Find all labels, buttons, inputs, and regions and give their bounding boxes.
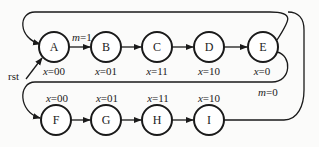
svg-text:H: H — [153, 113, 162, 127]
output-e: x=0 — [253, 65, 271, 77]
state-e: E — [248, 32, 278, 62]
output-f: x=00 — [45, 92, 69, 104]
svg-text:G: G — [102, 113, 111, 127]
state-diagram: A B C D E F G H — [0, 0, 319, 147]
svg-text:D: D — [205, 40, 214, 54]
output-d: x=10 — [197, 65, 221, 77]
state-g: G — [91, 105, 121, 135]
svg-text:B: B — [102, 40, 110, 54]
state-i: I — [194, 105, 224, 135]
state-a: A — [39, 32, 69, 62]
output-c: x=11 — [145, 65, 168, 77]
svg-text:C: C — [153, 40, 161, 54]
output-b: x=01 — [94, 65, 117, 77]
svg-text:I: I — [207, 113, 211, 127]
condition-a-b: m=1 — [72, 31, 92, 43]
state-h: H — [142, 105, 172, 135]
state-f: F — [41, 105, 71, 135]
output-h: x=11 — [146, 92, 169, 104]
state-c: C — [142, 32, 172, 62]
output-a: x=00 — [42, 65, 66, 77]
state-b: B — [91, 32, 121, 62]
svg-text:F: F — [53, 113, 60, 127]
output-labels: x=00 x=01 x=11 x=10 x=0 x=00 x=01 x=11 x… — [42, 65, 271, 104]
output-i: x=10 — [197, 92, 221, 104]
svg-text:A: A — [50, 40, 59, 54]
output-g: x=01 — [95, 92, 118, 104]
reset-arrow — [26, 58, 42, 79]
condition-e-f: m=0 — [258, 86, 278, 98]
reset-label: rst — [8, 70, 19, 82]
svg-text:E: E — [259, 40, 266, 54]
state-d: D — [194, 32, 224, 62]
